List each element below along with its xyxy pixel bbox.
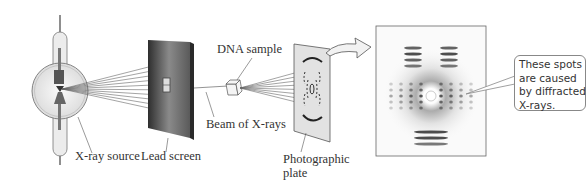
diffraction-spot [459,106,463,109]
diffraction-spot [419,106,423,109]
photographic-plate [294,44,330,142]
diffraction-spot [449,106,453,109]
diffraction-spot [409,82,413,85]
diffraction-spot [389,106,393,109]
leader-xray-source [78,117,92,153]
xray-beam [194,86,228,88]
diffraction-spot [459,100,463,103]
diffraction-spot [439,100,443,103]
diffraction-spot [449,82,453,85]
diffraction-spot [399,94,403,97]
leader-plate [301,133,306,152]
diffraction-spot [404,52,422,55]
label-beam: Beam of X-rays [206,117,286,131]
diffraction-spot [449,88,453,91]
diffraction-spot [399,88,403,91]
diffraction-spot [459,82,463,85]
diffraction-spot [440,58,458,61]
anode-stem [58,104,61,130]
diffraction-spot [399,100,403,103]
diffraction-spot [469,82,473,85]
diffraction-photo [376,26,486,156]
diffraction-spot [409,94,413,97]
callout-line: are caused [519,72,581,86]
cathode-stem [58,48,61,70]
leader-beam [206,92,214,117]
diffraction-spot [459,88,463,91]
diffraction-spot [469,88,473,91]
dna-sample-cube [226,80,242,95]
diffraction-spot [389,94,393,97]
diffraction-spot [399,106,403,109]
photo-center [426,91,436,101]
cathode [54,70,64,84]
diffraction-spot [419,82,423,85]
diffraction-spot [419,100,423,103]
diffraction-spot [419,88,423,91]
diffraction-spot [439,88,443,91]
diffraction-spot [414,130,448,133]
curved-arrow-icon [326,38,371,58]
diffraction-spot [439,94,443,97]
callout-line: X-rays. [519,99,581,113]
callout-line: by diffracted [519,85,581,99]
diffraction-spot [409,88,413,91]
diffraction-spot [419,94,423,97]
diffraction-spot [414,142,448,145]
label-lead-screen: Lead screen [141,149,201,163]
lead-screen-side [190,42,194,140]
diffraction-spot [409,100,413,103]
diffraction-spot [440,64,458,67]
label-dna-sample: DNA sample [217,42,282,56]
label-photographic-line1: Photographic [283,152,350,166]
diffraction-spot [449,94,453,97]
diffraction-spot [439,106,443,109]
diffraction-spot [389,100,393,103]
diffraction-spot [399,82,403,85]
label-photographic-plate: Photographic plate [283,152,350,180]
label-photographic-line2: plate [283,166,350,180]
diffraction-spot [440,52,458,55]
diffraction-spot [440,46,458,49]
diffraction-spot [459,94,463,97]
leader-dna-sample [237,58,252,80]
diffraction-spot [439,82,443,85]
diffraction-spot [469,100,473,103]
diffraction-spot [404,46,422,49]
callout-box: These spots are caused by diffracted X-r… [514,55,586,111]
diffraction-spot [404,58,422,61]
diffraction-spot [469,94,473,97]
diffraction-spot [389,88,393,91]
diffraction-spot [409,106,413,109]
label-xray-source: X-ray source [75,149,140,163]
callout-line: These spots [519,58,581,72]
diffraction-spot [469,106,473,109]
diffraction-spot [404,64,422,67]
diffraction-spot [414,136,448,139]
diffraction-spot [389,82,393,85]
lead-screen [148,40,194,140]
diffraction-spot [449,100,453,103]
